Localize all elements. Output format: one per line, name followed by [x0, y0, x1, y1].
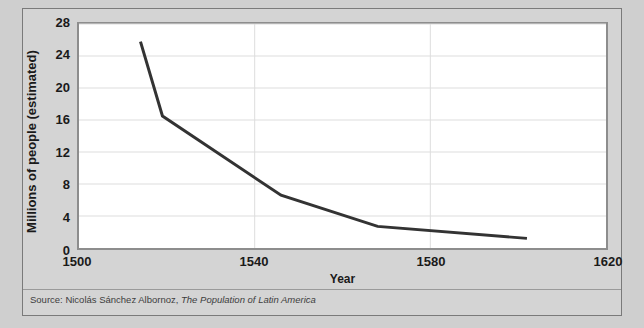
source-caption: Source: Nicolás Sánchez Albornoz, The Po…: [30, 294, 316, 305]
y-tick-label: 12: [38, 146, 70, 159]
plot-area: [77, 22, 608, 250]
y-tick-label: 8: [38, 178, 70, 191]
x-tick-label: 1620: [594, 254, 623, 269]
y-tick-label: 4: [38, 211, 70, 224]
x-tick-label: 1580: [417, 254, 446, 269]
y-tick-label: 16: [38, 113, 70, 126]
series-line-0: [140, 42, 526, 239]
x-tick-label: 1540: [240, 254, 269, 269]
y-axis-ticks: 0481216202428: [36, 0, 70, 328]
source-prefix: Source: Nicolás Sánchez Albornoz,: [30, 294, 181, 305]
chart-area: Millions of people (estimated) 048121620…: [0, 0, 644, 328]
source-work-title: The Population of Latin America: [181, 294, 316, 305]
source-divider: [23, 289, 621, 290]
figure-container: Millions of people (estimated) 048121620…: [0, 0, 644, 328]
y-tick-label: 20: [38, 81, 70, 94]
series-line-chart: [79, 24, 606, 248]
x-axis-label: Year: [77, 272, 608, 286]
y-tick-label: 28: [38, 16, 70, 29]
x-tick-label: 1500: [63, 254, 92, 269]
y-tick-label: 24: [38, 48, 70, 61]
